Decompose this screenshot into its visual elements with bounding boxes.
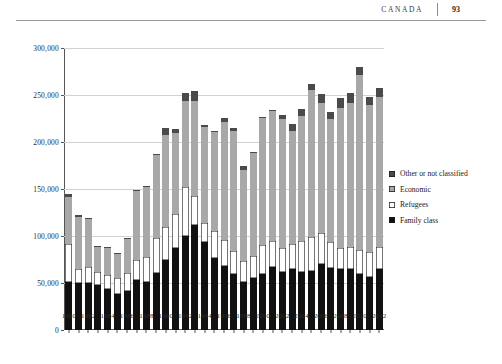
y-axis-tick-label: 0	[0, 326, 59, 335]
legend-label: Economic	[400, 185, 431, 194]
bar-segment	[133, 191, 140, 260]
x-axis-tick-label: 1994	[197, 312, 211, 320]
bar-segment	[298, 241, 305, 272]
bar-column	[258, 48, 268, 330]
bar-segment	[230, 274, 237, 330]
bar-segment	[143, 257, 150, 282]
bar-column	[355, 48, 365, 330]
stacked-bar	[65, 194, 72, 330]
bar-segment	[337, 108, 344, 248]
bar-segment	[327, 119, 334, 242]
bar-segment	[124, 239, 131, 273]
bar-segment	[153, 238, 160, 273]
stacked-bar	[211, 131, 218, 330]
bar-segment	[182, 187, 189, 236]
x-axis-tick-label: 1996	[217, 312, 231, 320]
x-tick-mark	[175, 330, 176, 333]
header-rule	[16, 20, 486, 21]
bar-segment	[191, 91, 198, 100]
bar-segment	[298, 116, 305, 241]
bar-segment	[162, 128, 169, 136]
bar-segment	[182, 101, 189, 187]
stacked-bar	[289, 124, 296, 330]
x-tick-mark	[107, 330, 108, 333]
bar-segment	[279, 248, 286, 272]
x-tick-mark	[185, 330, 186, 333]
bar-segment	[376, 269, 383, 330]
bar-segment	[124, 291, 131, 330]
page-header-inner: CANADA 93	[381, 3, 460, 16]
bar-column	[345, 48, 355, 330]
x-tick-mark	[262, 330, 263, 333]
legend-swatch	[389, 202, 395, 208]
page-header: CANADA 93	[0, 0, 502, 26]
bar-segment	[259, 245, 266, 273]
bar-segment	[240, 282, 247, 330]
bar-column	[190, 48, 200, 330]
x-tick-mark	[359, 330, 360, 333]
bar-segment	[289, 131, 296, 245]
bar-segment	[327, 242, 334, 268]
chart-legend: Other or not classifiedEconomicRefugeesF…	[389, 169, 468, 225]
bar-segment	[191, 196, 198, 225]
x-tick-mark	[224, 330, 225, 333]
bar-segment	[279, 119, 286, 249]
bar-segment	[104, 275, 111, 289]
x-tick-mark	[243, 330, 244, 333]
bar-segment	[94, 285, 101, 330]
bar-column	[151, 48, 161, 330]
bar-column	[64, 48, 74, 330]
page-number: 93	[438, 5, 460, 14]
bar-segment	[308, 84, 315, 91]
x-tick-mark	[165, 330, 166, 333]
bar-column	[180, 48, 190, 330]
bar-segment	[318, 94, 325, 102]
bar-column	[200, 48, 210, 330]
bar-segment	[347, 247, 354, 269]
bar-segment	[162, 135, 169, 226]
bar-segment	[269, 241, 276, 267]
bar-segment	[376, 247, 383, 269]
y-axis-tick-label: 300,000	[0, 44, 59, 53]
y-axis-tick-label: 100,000	[0, 232, 59, 241]
x-tick-mark	[117, 330, 118, 333]
bar-segment	[153, 155, 160, 238]
bar-column	[74, 48, 84, 330]
x-tick-mark	[301, 330, 302, 333]
stacked-bar	[337, 98, 344, 330]
bar-segment	[94, 247, 101, 271]
bar-segment	[259, 118, 266, 246]
bar-column	[161, 48, 171, 330]
bar-segment	[289, 124, 296, 131]
x-axis-tick-label: 2000	[256, 312, 270, 320]
bar-column	[375, 48, 385, 330]
bar-segment	[318, 264, 325, 330]
bar-segment	[337, 98, 344, 108]
y-axis-tick-label: 150,000	[0, 185, 59, 194]
plot-area	[64, 48, 384, 330]
bar-segment	[376, 97, 383, 247]
stacked-bar	[172, 129, 179, 330]
x-tick-mark	[88, 330, 89, 333]
bar-segment	[308, 237, 315, 271]
bar-column	[307, 48, 317, 330]
bar-segment	[347, 93, 354, 103]
bar-column	[113, 48, 123, 330]
bar-column	[287, 48, 297, 330]
bar-column	[316, 48, 326, 330]
y-axis-tick-label: 250,000	[0, 91, 59, 100]
bar-segment	[133, 280, 140, 330]
bar-segment	[269, 267, 276, 330]
stacked-bar	[318, 94, 325, 330]
bar-column	[142, 48, 152, 330]
stacked-bar	[366, 97, 373, 330]
x-axis-tick-label: 2006	[314, 312, 328, 320]
stacked-bar	[201, 125, 208, 330]
bar-segment	[356, 75, 363, 250]
bar-segment	[366, 97, 373, 105]
bar-segment	[240, 170, 247, 261]
bar-segment	[337, 269, 344, 330]
legend-label: Other or not classified	[400, 169, 468, 178]
bar-segment	[327, 112, 334, 119]
stacked-bar	[327, 112, 334, 330]
